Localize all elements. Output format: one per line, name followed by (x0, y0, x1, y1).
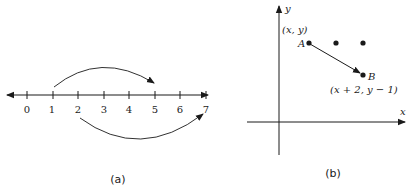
x-axis-label: x (400, 106, 406, 117)
caption-b: (b) (325, 167, 341, 180)
tick-label-5: 5 (152, 104, 158, 115)
diagram-canvas: 0 1 2 3 4 5 6 7 (a) y x (x, y) A B (x + … (0, 0, 406, 195)
point-b-coords: (x + 2, y − 1) (330, 84, 398, 95)
tick-label-7: 7 (203, 104, 209, 115)
grid-dot-2 (360, 40, 365, 45)
tick-label-2: 2 (75, 104, 81, 115)
y-axis-label: y (284, 3, 291, 14)
tick-label-3: 3 (101, 104, 107, 115)
tick-label-4: 4 (126, 104, 132, 115)
tick-label-0: 0 (24, 104, 30, 115)
point-b (360, 72, 365, 77)
arrow-a-to-b (310, 44, 360, 73)
panel-b: y x (x, y) A B (x + 2, y − 1) (b) (247, 3, 406, 180)
grid-dot-1 (333, 40, 338, 45)
point-a-label: A (297, 38, 305, 49)
tick-label-6: 6 (177, 104, 183, 115)
panel-a: 0 1 2 3 4 5 6 7 (a) (7, 67, 209, 186)
tick-labels: 0 1 2 3 4 5 6 7 (24, 104, 209, 115)
point-a-coords: (x, y) (282, 24, 308, 35)
arc-2-to-7 (80, 114, 203, 139)
arc-1-to-5 (54, 67, 154, 87)
caption-a: (a) (110, 173, 125, 186)
point-b-label: B (367, 71, 375, 82)
tick-label-1: 1 (49, 104, 55, 115)
